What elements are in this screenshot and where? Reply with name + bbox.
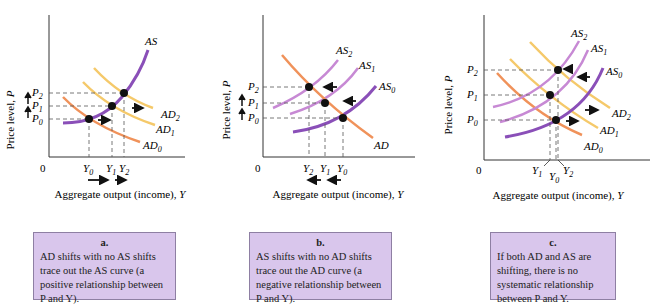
svg-text:AS2: AS2: [335, 44, 352, 59]
svg-text:P1: P1: [247, 96, 259, 111]
caption-line: systematic relationship: [497, 278, 609, 292]
caption-line: between P and Y.: [497, 292, 609, 306]
caption-line: positive relationship between: [40, 278, 169, 292]
svg-text:AD2: AD2: [160, 108, 180, 123]
svg-text:AS1: AS1: [590, 42, 607, 57]
panel-c: AS2 AS1 AS0 AD2 AD1 AD0 P2 P1 P0 0 Y1 Y0…: [440, 0, 659, 302]
caption-line: trace out the AS curve (a: [40, 264, 169, 278]
svg-text:Price level, P: Price level, P: [442, 75, 454, 134]
svg-text:AD0: AD0: [142, 139, 162, 154]
svg-text:Y2: Y2: [563, 164, 573, 179]
svg-text:P0: P0: [31, 112, 43, 127]
caption-a: a. AD shifts with no AS shifts trace out…: [33, 232, 176, 300]
svg-text:P1: P1: [466, 88, 478, 103]
svg-text:Y2: Y2: [303, 162, 313, 177]
svg-text:AS: AS: [144, 35, 158, 47]
caption-line: negative relationship between: [256, 278, 385, 292]
svg-text:0: 0: [476, 164, 482, 176]
panel-b: AS2 AS1 AS0 AD P2 P1 P0 0 Y2 Y1 Y0 Price…: [220, 0, 440, 302]
svg-text:AS1: AS1: [358, 59, 375, 74]
svg-text:0: 0: [40, 162, 46, 174]
caption-line: P and Y).: [256, 292, 385, 306]
svg-text:Y1: Y1: [106, 162, 116, 177]
svg-text:Y2: Y2: [119, 162, 129, 177]
svg-text:P0: P0: [247, 111, 259, 126]
diagram-b: AS2 AS1 AS0 AD P2 P1 P0 0 Y2 Y1 Y0 Price…: [220, 0, 440, 230]
caption-line: P and Y).: [40, 292, 169, 306]
svg-text:AD1: AD1: [599, 124, 619, 139]
svg-text:AD0: AD0: [583, 140, 603, 155]
svg-text:Aggregate output (income), Y: Aggregate output (income), Y: [273, 188, 406, 201]
caption-b: b. AS shifts with no AD shifts trace out…: [249, 232, 392, 300]
svg-text:Price level, P: Price level, P: [220, 80, 232, 139]
svg-text:P2: P2: [466, 63, 478, 78]
caption-letter: c.: [497, 236, 609, 250]
svg-text:Y0: Y0: [337, 162, 347, 177]
x-axis-label: Aggregate output (income), Y: [55, 188, 188, 201]
caption-letter: b.: [256, 236, 385, 250]
svg-text:Y0: Y0: [549, 170, 559, 185]
diagram-a: AS AD2 AD1 AD0 P2 P1 P0 0 Y0 Y1 Y2 Price…: [0, 0, 220, 230]
caption-line: If both AD and AS are: [497, 250, 609, 264]
svg-text:Y1: Y1: [532, 164, 542, 179]
svg-text:AD1: AD1: [155, 123, 175, 138]
svg-text:AD: AD: [373, 139, 389, 151]
svg-text:P0: P0: [466, 113, 478, 128]
caption-c: c. If both AD and AS are shifting, there…: [490, 232, 616, 300]
svg-text:AS0: AS0: [605, 65, 622, 80]
caption-line: AD shifts with no AS shifts: [40, 250, 169, 264]
svg-text:AS0: AS0: [378, 80, 395, 95]
svg-text:Y0: Y0: [83, 162, 93, 177]
svg-text:Y1: Y1: [320, 162, 330, 177]
svg-text:P2: P2: [247, 80, 259, 95]
diagram-c: AS2 AS1 AS0 AD2 AD1 AD0 P2 P1 P0 0 Y1 Y0…: [440, 0, 659, 230]
caption-line: AS shifts with no AD shifts: [256, 250, 385, 264]
caption-line: shifting, there is no: [497, 264, 609, 278]
caption-line: trace out the AD curve (a: [256, 264, 385, 278]
caption-letter: a.: [40, 236, 169, 250]
svg-text:Aggregate output (income), Y: Aggregate output (income), Y: [493, 189, 626, 202]
y-axis-label: Price level, P: [4, 90, 16, 149]
svg-text:AS2: AS2: [570, 27, 587, 42]
panel-a: AS AD2 AD1 AD0 P2 P1 P0 0 Y0 Y1 Y2 Price…: [0, 0, 220, 302]
svg-text:AD2: AD2: [611, 107, 631, 122]
svg-text:0: 0: [255, 162, 261, 174]
